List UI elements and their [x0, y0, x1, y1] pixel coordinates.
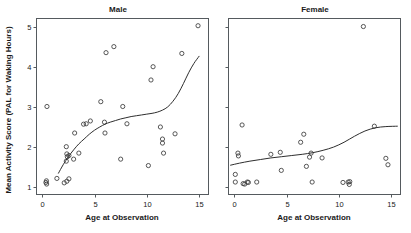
- data-point: [269, 152, 273, 156]
- data-point: [384, 156, 388, 160]
- data-point: [64, 145, 68, 149]
- panel-male: Male 12345 051015 Age at Observation: [27, 5, 208, 222]
- data-point: [240, 123, 244, 127]
- data-point: [119, 157, 123, 161]
- data-point: [84, 122, 88, 126]
- figure-container: Mean Activity Score (PAL for Waking Hour…: [0, 0, 411, 233]
- data-point: [72, 157, 76, 161]
- x-tick-label: 15: [387, 200, 395, 209]
- panel-female: Female 051015 Age at Observation: [226, 5, 401, 222]
- y-tick-label: 5: [27, 23, 31, 32]
- data-point: [386, 163, 390, 167]
- x-tick-label: 0: [232, 200, 236, 209]
- panel-title-male: Male: [109, 5, 127, 14]
- y-axis-ticklabels-male: 12345: [27, 23, 31, 192]
- data-point: [279, 168, 283, 172]
- data-point: [233, 172, 237, 176]
- data-point: [302, 132, 306, 136]
- data-point: [104, 51, 108, 55]
- panel-title-female: Female: [301, 5, 329, 14]
- data-point: [304, 164, 308, 168]
- data-point: [151, 65, 155, 69]
- data-point: [112, 45, 116, 49]
- data-point: [160, 141, 164, 145]
- x-tick-label: 5: [285, 200, 289, 209]
- data-point: [103, 131, 107, 135]
- x-axis-title-female: Age at Observation: [277, 213, 350, 222]
- x-tick-label: 10: [143, 200, 151, 209]
- x-axis-ticklabels-female: 051015: [232, 200, 395, 209]
- data-point: [146, 163, 150, 167]
- y-axis-title: Mean Activity Score (PAL for Waking Hour…: [4, 26, 13, 193]
- data-point: [88, 119, 92, 123]
- data-point: [320, 156, 324, 160]
- data-point: [73, 131, 77, 135]
- x-axis-ticklabels-male: 051015: [40, 200, 203, 209]
- data-point: [173, 132, 177, 136]
- data-point: [196, 24, 200, 28]
- data-point: [307, 155, 311, 159]
- data-point: [299, 140, 303, 144]
- x-tick-label: 5: [93, 200, 97, 209]
- y-tick-label: 1: [27, 183, 31, 192]
- data-point: [310, 180, 314, 184]
- data-point: [121, 104, 125, 108]
- x-tick-label: 0: [40, 200, 44, 209]
- data-point: [341, 180, 345, 184]
- data-point: [233, 180, 237, 184]
- data-point: [77, 151, 81, 155]
- data-point: [180, 51, 184, 55]
- plot-frame-female: [229, 19, 401, 195]
- data-point: [160, 137, 164, 141]
- data-point: [125, 122, 129, 126]
- data-point: [278, 150, 282, 154]
- y-tick-label: 2: [27, 143, 31, 152]
- x-tick-label: 10: [335, 200, 343, 209]
- data-points-male: [44, 24, 200, 187]
- data-points-female: [233, 24, 390, 186]
- x-axis-title-male: Age at Observation: [85, 213, 158, 222]
- data-point: [149, 78, 153, 82]
- y-tick-label: 4: [27, 63, 31, 72]
- scatter-plot-figure: Mean Activity Score (PAL for Waking Hour…: [0, 0, 411, 233]
- data-point: [45, 104, 49, 108]
- data-point: [255, 180, 259, 184]
- data-point: [99, 100, 103, 104]
- y-tick-label: 3: [27, 103, 31, 112]
- plot-frame-male: [37, 19, 209, 195]
- x-tick-label: 15: [195, 200, 203, 209]
- trend-line-female: [231, 126, 398, 165]
- trend-line-male: [58, 56, 199, 173]
- data-point: [158, 125, 162, 129]
- data-point: [361, 24, 365, 28]
- data-point: [236, 154, 240, 158]
- data-point: [161, 151, 165, 155]
- data-point: [55, 176, 59, 180]
